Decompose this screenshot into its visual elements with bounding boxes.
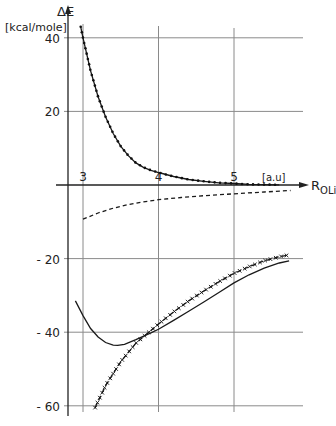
series-curve	[83, 191, 291, 220]
dot-marker	[102, 110, 105, 113]
cross-marker	[114, 367, 118, 371]
dot-marker	[186, 178, 189, 181]
cross-marker	[248, 265, 252, 269]
x-axis-label: ROLi	[311, 178, 336, 196]
dot-marker	[197, 179, 200, 182]
dot-marker	[84, 47, 87, 50]
y-axis-unit: [kcal/mole]	[5, 21, 67, 34]
cross-marker	[120, 358, 124, 362]
dot-marker	[246, 183, 249, 186]
x-tick-label: 3	[79, 170, 87, 184]
cross-marker	[131, 345, 135, 349]
dot-marker	[119, 145, 122, 148]
cross-marker	[209, 285, 213, 289]
dot-marker	[139, 164, 142, 167]
dot-marker	[175, 176, 178, 179]
y-tick-label: 20	[45, 105, 60, 119]
dot-marker	[165, 173, 168, 176]
y-tick-label: - 40	[37, 326, 60, 340]
dot-marker	[134, 161, 137, 164]
dot-marker	[82, 36, 85, 39]
cross-marker	[134, 341, 138, 345]
cross-marker	[111, 372, 115, 376]
gridlines	[64, 24, 303, 412]
dot-marker	[104, 115, 107, 118]
series-curve	[81, 27, 280, 185]
dot-marker	[95, 90, 98, 93]
cross-marker	[124, 354, 128, 358]
cross-marker	[195, 294, 199, 298]
dot-marker	[202, 180, 205, 183]
dot-marker	[94, 84, 97, 87]
dot-marker	[83, 42, 86, 45]
dot-marker	[114, 135, 117, 138]
dot-marker	[224, 182, 227, 185]
cross-marker	[105, 381, 109, 385]
dot-marker	[159, 172, 162, 175]
energy-curve-chart: 4020- 20- 40- 60345 ΔE [kcal/mole] [a.u]…	[0, 0, 336, 426]
cross-marker	[177, 306, 181, 310]
cross-marker	[151, 327, 155, 331]
y-axis-label: ΔE	[57, 4, 74, 19]
cross-marker	[186, 300, 190, 304]
dot-marker	[107, 120, 110, 123]
dot-marker	[100, 105, 103, 108]
cross-marker	[204, 288, 208, 292]
dot-marker	[235, 182, 238, 185]
dot-marker	[274, 183, 277, 186]
dot-marker	[92, 79, 95, 82]
cross-marker	[181, 303, 185, 307]
x-axis-label-sub: OLi	[320, 185, 336, 196]
axes	[56, 5, 309, 416]
dot-marker	[88, 63, 91, 66]
dot-marker	[252, 183, 255, 186]
dot-marker	[219, 182, 222, 185]
dot-marker	[79, 26, 82, 29]
cross-marker	[173, 310, 177, 314]
dot-marker	[109, 125, 112, 128]
x-tick-label: 5	[230, 170, 238, 184]
tick-labels: 4020- 20- 40- 60345	[37, 32, 238, 414]
dot-marker	[213, 181, 216, 184]
dot-marker	[81, 31, 84, 34]
y-tick-label: - 20	[37, 253, 60, 267]
dot-marker	[230, 182, 233, 185]
dot-marker	[99, 100, 102, 103]
cross-marker	[108, 377, 112, 381]
x-axis-label-main: R	[311, 178, 320, 193]
dot-marker	[154, 170, 157, 173]
dot-marker	[263, 183, 266, 186]
dot-marker	[144, 167, 147, 170]
x-axis-arrow-icon	[299, 182, 309, 188]
dot-marker	[123, 149, 126, 152]
dot-marker	[87, 58, 90, 61]
dot-marker	[268, 183, 271, 186]
cross-marker	[190, 297, 194, 301]
cross-marker	[127, 350, 131, 354]
dot-marker	[181, 177, 184, 180]
cross-marker	[168, 313, 172, 317]
cross-marker	[200, 291, 204, 295]
cross-marker	[164, 316, 168, 320]
dot-marker	[257, 183, 260, 186]
cross-marker	[160, 320, 164, 324]
series-curve	[95, 255, 289, 408]
dot-marker	[241, 183, 244, 186]
data-series	[75, 26, 290, 410]
dot-marker	[170, 175, 173, 178]
dot-marker	[89, 68, 92, 71]
dot-marker	[149, 169, 152, 172]
dot-marker	[208, 181, 211, 184]
x-axis-unit: [a.u]	[262, 172, 286, 183]
dot-marker	[191, 179, 194, 182]
dot-marker	[85, 52, 88, 55]
series-curve	[75, 261, 289, 346]
dot-marker	[91, 74, 94, 77]
cross-marker	[117, 363, 121, 367]
dot-marker	[130, 157, 133, 160]
dot-marker	[111, 130, 114, 133]
dot-marker	[97, 95, 100, 98]
dot-marker	[126, 153, 129, 156]
y-tick-label: - 60	[37, 400, 60, 414]
cross-marker	[214, 282, 218, 286]
